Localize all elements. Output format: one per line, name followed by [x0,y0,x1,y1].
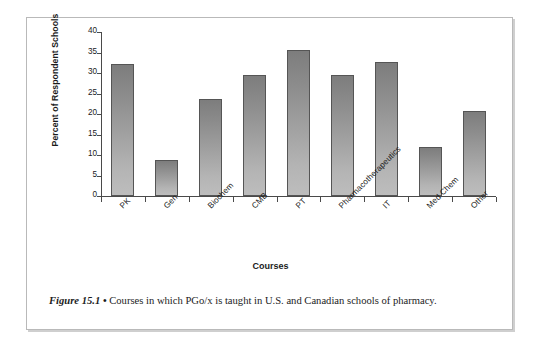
bar [419,147,442,196]
bar-chart: Percent of Respondent Schools 0510152025… [27,18,514,290]
figure-frame: Percent of Respondent Schools 0510152025… [26,17,513,330]
y-tick-label: 35 [88,47,97,56]
y-tick-label: 20 [88,108,97,117]
bar [199,99,222,196]
x-tick-mark [496,197,497,202]
x-tick-mark [277,197,278,202]
y-tick-mark [97,176,102,177]
x-tick-mark [189,197,190,202]
x-tick-mark [364,197,365,202]
y-tick-mark [97,53,102,54]
x-tick-mark [408,197,409,202]
y-tick-label: 5 [92,170,97,179]
x-category-label: PT [294,196,308,210]
y-tick-mark [97,135,102,136]
x-tick-mark [452,197,453,202]
x-tick-mark [101,197,102,202]
figure-caption-text: Courses in which PGo/x is taught in U.S.… [109,295,436,306]
bar [155,160,178,196]
y-tick-mark [97,32,102,33]
plot-area: 0510152025303540 PKGenBiochemCMBPTPharma… [101,32,496,197]
bar [243,75,266,196]
x-axis-title: Courses [27,261,514,271]
bar [375,62,398,196]
y-tick-label: 0 [92,190,97,199]
figure-caption: Figure 15.1 • Courses in which PGo/x is … [49,294,495,307]
y-tick-label: 10 [88,149,97,158]
bar [331,75,354,196]
x-tick-mark [320,197,321,202]
bar [463,111,486,196]
x-tick-mark [145,197,146,202]
y-tick-label: 15 [88,129,97,138]
y-tick-label: 25 [88,88,97,97]
y-tick-mark [97,73,102,74]
y-axis-title: Percent of Respondent Schools [50,5,60,155]
y-tick-mark [97,94,102,95]
y-tick-label: 30 [88,67,97,76]
x-tick-mark [233,197,234,202]
bar [111,64,134,196]
y-tick-mark [97,114,102,115]
x-category-label: PK [118,196,132,210]
y-tick-mark [97,155,102,156]
figure-caption-label: Figure 15.1 [49,295,100,306]
y-tick-label: 40 [88,26,97,35]
x-category-label: IT [381,199,393,211]
bar [287,50,310,196]
